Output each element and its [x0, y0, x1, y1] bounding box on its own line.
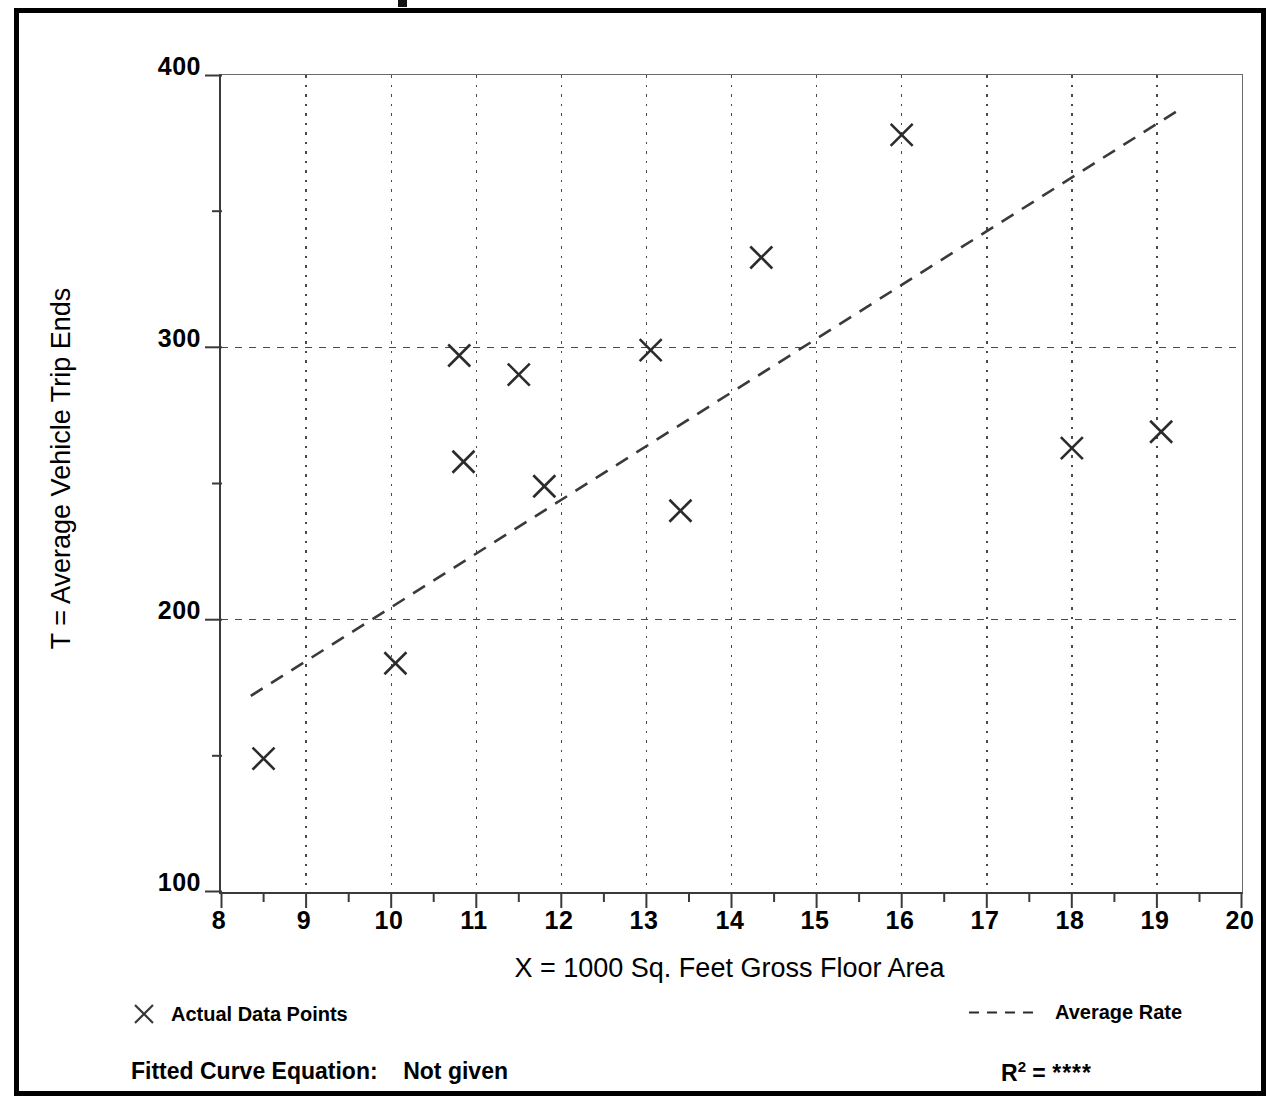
legend-entry-data-points: Actual Data Points — [131, 1001, 348, 1027]
y-axis-title: T = Average Vehicle Trip Ends — [46, 159, 77, 779]
data-point-marker — [1150, 421, 1172, 443]
x-tick-10: 10 — [375, 906, 404, 935]
legend-label-data-points: Actual Data Points — [171, 1003, 348, 1026]
plot-canvas — [221, 75, 1242, 892]
x-marker-icon — [131, 1001, 157, 1027]
x-tick-12: 12 — [545, 906, 574, 935]
y-tick-200: 200 — [158, 596, 201, 625]
x-tick-9: 9 — [297, 906, 311, 935]
data-point-marker — [508, 364, 530, 386]
x-tick-17: 17 — [971, 906, 1000, 935]
equation-label: Fitted Curve Equation: — [131, 1058, 378, 1084]
x-tick-11: 11 — [460, 906, 487, 935]
y-axis-minor-ticks — [212, 211, 222, 756]
y-axis-tick-labels: 400 300 200 100 — [137, 13, 201, 1013]
data-point-marker — [669, 500, 691, 522]
data-point-marker — [253, 748, 275, 770]
figure-frame: 400 300 200 100 T = Average Vehicle Trip… — [14, 8, 1266, 1096]
fitted-curve-equation: Fitted Curve Equation: Not given — [131, 1058, 508, 1085]
x-axis-title: X = 1000 Sq. Feet Gross Floor Area — [219, 953, 1240, 984]
x-tick-16: 16 — [886, 906, 915, 935]
dashed-line-icon — [969, 1011, 1041, 1014]
legend-entry-average-rate: Average Rate — [969, 1001, 1182, 1024]
equation-value: Not given — [403, 1058, 508, 1084]
y-tick-300: 300 — [158, 324, 201, 353]
x-tick-8: 8 — [212, 906, 226, 935]
r-squared-exponent: 2 — [1018, 1058, 1026, 1075]
data-point-marker — [452, 451, 474, 473]
data-point-marker — [384, 652, 406, 674]
x-tick-19: 19 — [1141, 906, 1170, 935]
chart-page: p 400 300 200 100 T = Average Vehicle Tr… — [0, 0, 1280, 1107]
scatter-points-layer — [253, 124, 1173, 770]
x-tick-20: 20 — [1226, 906, 1255, 935]
y-tick-100: 100 — [158, 868, 201, 897]
data-point-marker — [533, 475, 555, 497]
r-squared-row: R2 = **** — [1001, 1058, 1092, 1087]
x-tick-14: 14 — [716, 906, 745, 935]
r-squared-equals: = — [1032, 1060, 1045, 1086]
legend-label-average-rate: Average Rate — [1055, 1001, 1182, 1024]
y-tick-400: 400 — [158, 52, 201, 81]
data-point-marker — [640, 339, 662, 361]
r-squared-value: **** — [1052, 1060, 1092, 1086]
vertical-gridlines — [306, 75, 1157, 892]
x-axis-tick-labels: 8 9 10 11 12 13 14 15 16 17 18 19 20 — [19, 906, 1280, 940]
data-point-marker — [750, 246, 772, 268]
x-tick-18: 18 — [1056, 906, 1085, 935]
clipped-title-artifact: p — [398, 0, 407, 7]
x-tick-15: 15 — [801, 906, 830, 935]
x-tick-13: 13 — [630, 906, 659, 935]
r-squared-base: R — [1001, 1060, 1018, 1086]
plot-area — [219, 74, 1243, 894]
